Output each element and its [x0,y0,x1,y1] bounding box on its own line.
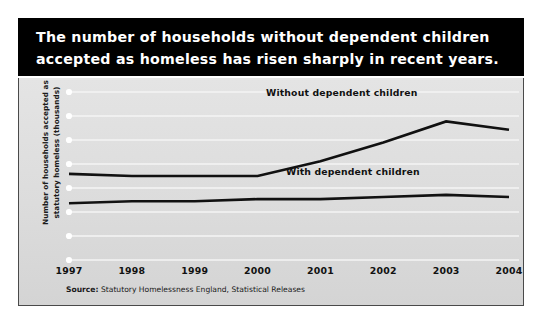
chart-panel: Number of households accepted as statuto… [18,78,524,306]
series-label-with-dependent-children: With dependent children [286,166,420,177]
x-tick-label-1997: 1997 [43,265,95,276]
axis-dot-marker [66,161,72,167]
page-title: The number of households without depende… [36,27,508,70]
series-label-without-dependent-children: Without dependent children [266,87,418,98]
x-tick-label-2002: 2002 [357,265,409,276]
x-tick-label-2003: 2003 [420,265,472,276]
axis-dot-marker [66,137,72,143]
axis-dot-marker [66,233,72,239]
source-text: Statutory Homelessness England, Statisti… [99,285,305,294]
x-tick-label-1998: 1998 [106,265,158,276]
x-tick-label-2001: 2001 [294,265,346,276]
x-tick-label-2004: 2004 [483,265,524,276]
x-tick-label-1999: 1999 [169,265,221,276]
axis-dot-marker [66,209,72,215]
axis-dot-marker [66,257,72,263]
source-prefix: Source: [66,285,99,294]
axis-dot-marker [66,113,72,119]
series-line-with-dependent-children [69,195,509,203]
axis-dot-marker [66,185,72,191]
source-note: Source: Statutory Homelessness England, … [66,285,305,294]
title-band: The number of households without depende… [18,18,524,76]
axis-dot-markers [66,89,72,263]
x-tick-label-2000: 2000 [232,265,284,276]
chart-figure: The number of households without depende… [0,0,548,315]
axis-dot-marker [66,89,72,95]
series-lines-group [69,121,509,203]
